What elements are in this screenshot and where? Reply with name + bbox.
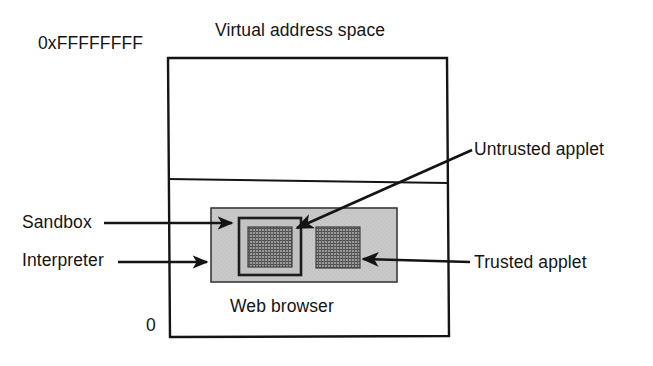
diagram-title: Virtual address space xyxy=(215,20,385,41)
trusted-applet-label: Trusted applet xyxy=(474,252,587,273)
address-label-top: 0xFFFFFFFF xyxy=(38,33,143,54)
address-label-bottom: 0 xyxy=(146,315,156,336)
interpreter-label: Interpreter xyxy=(22,250,104,271)
untrusted-applet-block xyxy=(248,227,292,267)
sandbox-label: Sandbox xyxy=(22,212,92,233)
web-browser-region-label: Web browser xyxy=(230,296,334,317)
diagram-canvas: Virtual address space 0xFFFFFFFF 0 Web b… xyxy=(0,0,653,366)
untrusted-applet-label: Untrusted applet xyxy=(474,139,604,160)
trusted-applet-block xyxy=(316,227,360,268)
